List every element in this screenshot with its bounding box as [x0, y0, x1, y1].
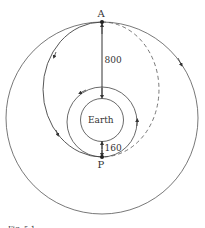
perigee-label: P	[98, 159, 105, 170]
apogee-distance-label: 800	[105, 55, 122, 65]
apogee-label: A	[97, 8, 106, 19]
arrow-outer-right	[178, 58, 182, 65]
figure-caption: Fig. 5.1	[8, 225, 35, 228]
arrow-ellipse-upper	[54, 52, 56, 57]
transfer-ellipse-dashed	[102, 22, 159, 157]
apogee-point	[100, 20, 104, 24]
perigee-distance-label: 160	[105, 143, 122, 153]
orbit-diagram: A P Earth 800 160 Fig. 5.1	[0, 0, 205, 228]
earth-label: Earth	[88, 115, 114, 125]
transfer-ellipse-solid	[43, 22, 102, 157]
